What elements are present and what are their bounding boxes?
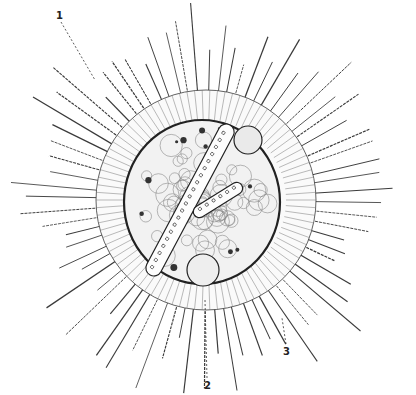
granule: [235, 248, 239, 252]
spine-line: [33, 97, 124, 151]
granule: [199, 128, 205, 134]
granule: [175, 140, 178, 143]
illustration-canvas: [0, 0, 416, 395]
label-3: 3: [283, 346, 290, 357]
label-leader-line: [61, 22, 95, 80]
granule: [203, 144, 207, 148]
granule: [170, 264, 177, 271]
cyst-lower: [187, 254, 219, 286]
label-1: 1: [56, 10, 63, 21]
spine-line: [136, 289, 173, 388]
granule: [228, 249, 233, 254]
radiolarian-figure: 1 2 3: [0, 0, 416, 395]
spine-line: [278, 261, 360, 331]
granule: [145, 177, 151, 183]
granule: [248, 184, 252, 188]
granule: [180, 137, 186, 143]
cyst-upper-right: [234, 126, 262, 154]
label-2: 2: [204, 380, 211, 391]
granule: [139, 212, 144, 217]
